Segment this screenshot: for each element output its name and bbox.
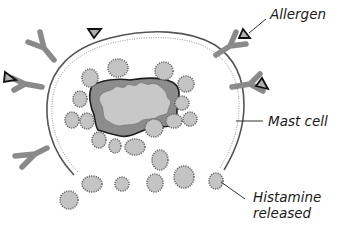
allergen-label: Allergen [270,6,326,22]
allergen-icon [88,29,101,38]
granules-released [60,150,223,209]
receptor-icon [28,32,54,60]
receptor-icon [15,148,47,167]
nucleus [90,78,179,136]
histamine-label-line1: Histamine [253,189,321,205]
histamine-label-line2: released [253,205,311,221]
allergen-leader [249,19,266,33]
allergen-icon [239,29,250,38]
histamine-leader [221,182,245,199]
mast-cell-label: Mast cell [268,113,328,129]
